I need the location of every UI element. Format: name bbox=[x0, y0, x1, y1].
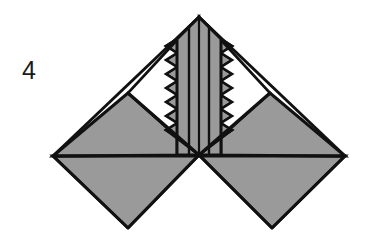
figure-illustration bbox=[0, 0, 372, 245]
figure-number-label: 4 bbox=[22, 54, 62, 86]
